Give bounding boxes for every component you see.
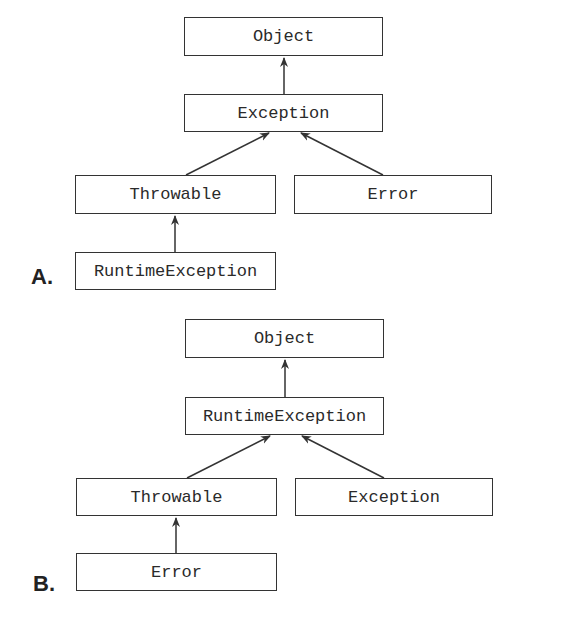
b-node-throwable: Throwable — [76, 478, 277, 516]
a-node-error: Error — [294, 175, 492, 214]
a-node-throwable: Throwable — [75, 175, 276, 214]
a-node-exception: Exception — [184, 94, 383, 132]
a-node-runtimeexception: RuntimeException — [75, 252, 276, 290]
arrow-a-left-to-middle — [186, 133, 269, 175]
b-node-object: Object — [185, 319, 384, 358]
a-node-object: Object — [184, 17, 383, 56]
arrow-a-right-to-middle — [301, 133, 383, 175]
option-b-label: B. — [33, 571, 55, 597]
b-node-error: Error — [76, 553, 277, 591]
option-a-label: A. — [31, 264, 53, 290]
arrow-b-right-to-middle — [302, 436, 384, 478]
arrow-b-left-to-middle — [187, 436, 270, 478]
b-node-exception: Exception — [295, 478, 493, 516]
b-node-runtimeexception: RuntimeException — [185, 397, 384, 435]
